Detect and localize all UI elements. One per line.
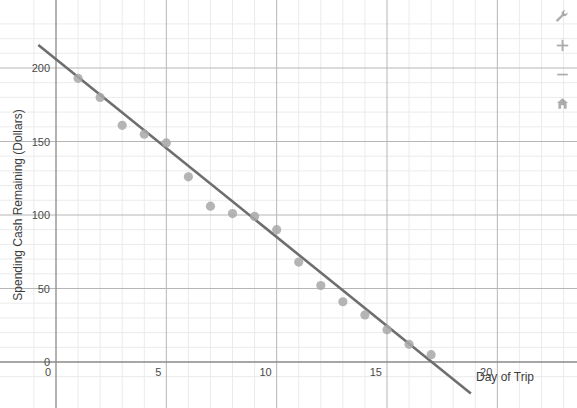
y-tick-label: 100 xyxy=(32,209,50,221)
y-tick-label: 0 xyxy=(44,356,50,368)
x-tick-label: 10 xyxy=(259,366,271,378)
data-point[interactable] xyxy=(294,257,303,266)
data-point[interactable] xyxy=(404,340,413,349)
data-point[interactable] xyxy=(250,212,259,221)
data-point[interactable] xyxy=(140,130,149,139)
data-point[interactable] xyxy=(382,325,391,334)
chart-toolbar[interactable] xyxy=(549,6,575,113)
minus-icon xyxy=(556,68,569,81)
data-point[interactable] xyxy=(206,202,215,211)
chart-app: 05101520050100150200 Day of Trip Spendin… xyxy=(0,0,577,408)
tick-labels: 05101520050100150200 xyxy=(32,62,493,378)
y-axis-title: Spending Cash Remaining (Dollars) xyxy=(11,109,25,300)
data-point[interactable] xyxy=(162,138,171,147)
y-tick-label: 50 xyxy=(38,283,50,295)
minor-gridlines xyxy=(0,0,577,408)
x-tick-label: 15 xyxy=(370,366,382,378)
data-point[interactable] xyxy=(272,225,281,234)
data-point[interactable] xyxy=(338,297,347,306)
y-tick-label: 200 xyxy=(32,62,50,74)
data-point[interactable] xyxy=(427,350,436,359)
data-point[interactable] xyxy=(73,74,82,83)
settings-wrench-button[interactable] xyxy=(552,6,572,26)
y-tick-label: 150 xyxy=(32,136,50,148)
data-point[interactable] xyxy=(96,93,105,102)
data-point[interactable] xyxy=(118,121,127,130)
reset-home-button[interactable] xyxy=(552,93,572,113)
data-point[interactable] xyxy=(228,209,237,218)
data-point[interactable] xyxy=(360,310,369,319)
wrench-icon xyxy=(555,9,569,23)
zoom-in-button[interactable] xyxy=(552,35,572,55)
data-point[interactable] xyxy=(316,281,325,290)
home-icon xyxy=(556,97,569,110)
x-tick-label: 5 xyxy=(155,366,161,378)
zoom-out-button[interactable] xyxy=(552,64,572,84)
data-point[interactable] xyxy=(184,172,193,181)
plus-icon xyxy=(556,39,569,52)
x-axis-title: Day of Trip xyxy=(476,370,534,384)
scatter-plot[interactable]: 05101520050100150200 Day of Trip Spendin… xyxy=(0,0,577,408)
